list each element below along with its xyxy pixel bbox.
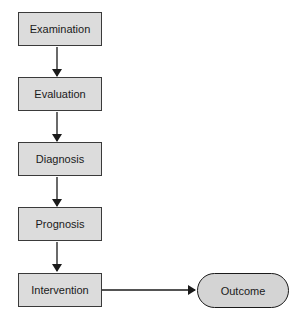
node-outcome: Outcome [197, 273, 289, 308]
node-label: Intervention [31, 284, 88, 296]
node-examination: Examination [18, 12, 102, 46]
node-intervention: Intervention [18, 273, 102, 307]
node-label: Outcome [221, 285, 266, 297]
node-label: Prognosis [36, 218, 85, 230]
node-label: Diagnosis [36, 153, 84, 165]
node-label: Evaluation [34, 88, 85, 100]
node-evaluation: Evaluation [18, 77, 102, 111]
node-label: Examination [30, 23, 91, 35]
node-diagnosis: Diagnosis [18, 142, 102, 176]
node-prognosis: Prognosis [18, 207, 102, 241]
